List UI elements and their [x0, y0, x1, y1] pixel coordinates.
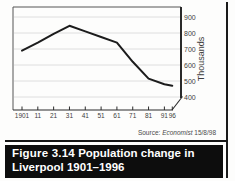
x-tick-label-96: 96 — [169, 112, 176, 119]
source-date: 15/8/98 — [194, 129, 216, 136]
source-prefix: Source: — [138, 129, 160, 136]
y-axis-title-text: Thousands — [196, 37, 206, 82]
caption-divider-rule — [5, 140, 228, 142]
y-tick-label-500: 500 — [184, 78, 196, 85]
x-tick-label-21: 21 — [50, 112, 57, 119]
x-tick-label-81: 81 — [145, 112, 152, 119]
x-tick-label-71: 71 — [129, 112, 136, 119]
x-tick-label-91: 91 — [161, 112, 168, 119]
caption-text-line2: Liverpool 1901–1996 — [12, 161, 223, 175]
figure-caption: Figure 3.14 Population change in Liverpo… — [5, 145, 223, 178]
figure-card: 400500600700800900 190111213141516171819… — [0, 0, 235, 181]
y-tick-label-700: 700 — [184, 46, 196, 53]
y-tick-label-400: 400 — [184, 94, 196, 101]
y-tick-label-800: 800 — [184, 30, 196, 37]
y-tick-label-900: 900 — [184, 14, 196, 21]
source-publication: Economist — [162, 129, 192, 136]
source-note: Source: Economist 15/8/98 — [138, 129, 216, 136]
x-tick-label-61: 61 — [113, 112, 120, 119]
y-tick-label-600: 600 — [184, 62, 196, 69]
caption-text-line1: Population change in — [78, 147, 194, 159]
y-axis-title: Thousands — [196, 20, 206, 98]
figure-number: Figure 3.14 — [12, 147, 75, 159]
x-tick-label-31: 31 — [66, 112, 73, 119]
population-line-series — [22, 26, 172, 86]
x-tick-label-11: 11 — [34, 112, 41, 119]
axis-break-line — [172, 97, 183, 111]
x-tick-label-1901: 1901 — [15, 112, 29, 119]
x-tick-label-51: 51 — [97, 112, 104, 119]
x-tick-label-41: 41 — [82, 112, 89, 119]
figure-right-border — [226, 2, 228, 178]
